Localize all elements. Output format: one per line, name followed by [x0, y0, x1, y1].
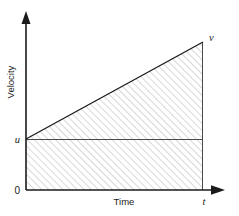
- origin-label: 0: [14, 185, 20, 196]
- y-axis-title: Velocity: [5, 65, 16, 98]
- velocity-time-graph-figure: 0 u v t Time Velocity: [0, 0, 239, 216]
- y-axis-arrow-icon: [22, 11, 31, 24]
- shaded-rectangle-region: [26, 139, 203, 190]
- graph-canvas: 0 u v t Time Velocity: [0, 0, 239, 216]
- u-label: u: [15, 134, 20, 145]
- x-axis-title: Time: [114, 196, 135, 207]
- v-label: v: [209, 32, 214, 43]
- x-axis-arrow-icon: [211, 185, 225, 195]
- t-label: t: [203, 196, 207, 207]
